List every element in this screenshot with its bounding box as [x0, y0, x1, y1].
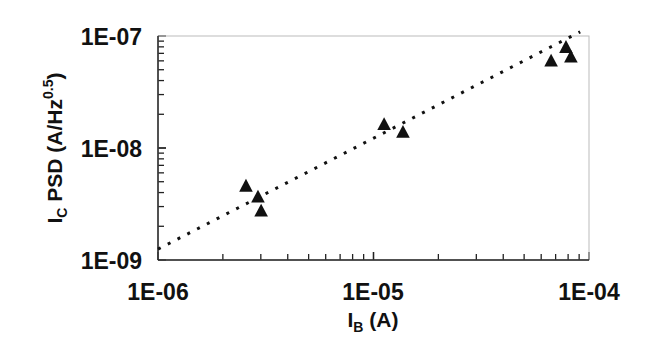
fit-line — [158, 32, 580, 249]
scatter-chart: 1E-07 1E-08 1E-09 1E-06 1E-05 1E-04 IB (… — [0, 0, 651, 345]
plot-frame — [158, 36, 589, 260]
triangle-marker — [239, 179, 253, 192]
x-tick-labels: 1E-06 1E-05 1E-04 — [127, 279, 620, 305]
x-tick-label: 1E-04 — [558, 279, 620, 305]
data-points — [239, 40, 578, 216]
x-tick-label: 1E-06 — [127, 279, 188, 305]
y-tick-label: 1E-08 — [81, 136, 143, 162]
y-tick-label: 1E-07 — [81, 24, 142, 50]
triangle-marker — [396, 125, 410, 138]
triangle-marker — [377, 117, 391, 130]
minor-ticks — [158, 36, 589, 260]
x-axis-title: IB (A) — [348, 308, 399, 335]
triangle-marker — [251, 190, 265, 203]
triangle-marker — [254, 204, 268, 217]
y-axis-title: IC PSD (A/Hz0.5) — [40, 73, 70, 224]
triangle-marker — [544, 54, 558, 67]
y-tick-labels: 1E-07 1E-08 1E-09 — [81, 24, 143, 274]
x-tick-label: 1E-05 — [342, 279, 404, 305]
fit-line-path — [158, 32, 580, 249]
y-tick-label: 1E-09 — [81, 248, 142, 274]
